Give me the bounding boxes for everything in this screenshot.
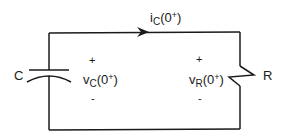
vr-superscript: + (214, 72, 219, 82)
resistor-minus-sign: - (198, 93, 202, 104)
capacitor-voltage-label: vC(0+) (83, 73, 118, 86)
vr-close: ) (220, 72, 224, 87)
resistor-plus-sign: + (196, 54, 202, 65)
vr-symbol: v (189, 72, 196, 87)
current-argument: (0 (160, 10, 172, 25)
capacitor-label: C (14, 69, 23, 82)
current-subscript: C (153, 16, 160, 27)
resistor-label: R (263, 69, 272, 82)
resistor-zigzag (229, 66, 254, 86)
circuit-diagram (0, 0, 285, 139)
vc-argument: (0 (97, 72, 109, 87)
vc-close: ) (114, 72, 118, 87)
vr-subscript: R (196, 78, 203, 89)
capacitor-minus-sign: - (91, 93, 95, 104)
vr-argument: (0 (203, 72, 215, 87)
resistor-voltage-label: vR(0+) (189, 73, 224, 86)
current-label: iC(0+) (150, 11, 181, 24)
vc-subscript: C (90, 78, 97, 89)
vc-symbol: v (83, 72, 90, 87)
capacitor-plus-sign: + (89, 55, 95, 66)
current-superscript: + (172, 10, 177, 20)
wire-bottom (49, 129, 240, 130)
vc-superscript: + (108, 72, 113, 82)
current-close: ) (177, 10, 181, 25)
